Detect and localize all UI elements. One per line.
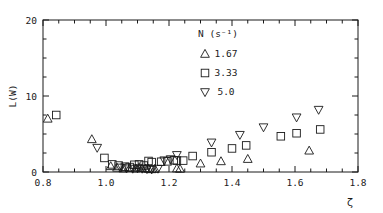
x-tick-label: 0.8: [34, 177, 51, 188]
figure-container: 0.81.01.21.41.61.801020ζL(W)N (s⁻¹)1.673…: [0, 0, 383, 213]
x-tick-label: 1.2: [160, 177, 177, 188]
x-tick-label: 1.0: [97, 177, 114, 188]
legend-label-3.33: 3.33: [215, 67, 238, 78]
x-axis-label: ζ: [347, 196, 354, 209]
data-point-5.0: [207, 139, 216, 147]
scatter-plot: 0.81.01.21.41.61.801020ζL(W)N (s⁻¹)1.673…: [0, 0, 383, 213]
data-point-3.33: [101, 154, 109, 162]
y-tick-label: 10: [26, 91, 38, 102]
data-point-1.67: [305, 146, 314, 154]
x-tick-label: 1.6: [286, 177, 303, 188]
legend-title: N (s⁻¹): [198, 28, 238, 39]
legend-label-1.67: 1.67: [215, 48, 238, 59]
data-point-1.67: [176, 164, 185, 172]
x-tick-label: 1.8: [349, 177, 366, 188]
y-tick-label: 20: [26, 15, 38, 26]
y-axis-label: L(W): [7, 85, 18, 108]
y-tick-label: 0: [31, 167, 37, 178]
data-point-3.33: [293, 129, 301, 137]
data-point-5.0: [236, 131, 245, 139]
legend-label-5.0: 5.0: [217, 86, 234, 97]
data-point-1.67: [87, 135, 96, 143]
data-point-3.33: [228, 145, 236, 153]
data-point-3.33: [52, 111, 60, 119]
data-point-5.0: [292, 114, 301, 122]
legend-marker-5.0: [201, 89, 210, 97]
data-point-1.67: [196, 159, 205, 167]
data-point-1.67: [243, 154, 252, 162]
data-point-5.0: [314, 106, 323, 114]
legend-marker-1.67: [201, 49, 210, 57]
data-point-3.33: [189, 152, 197, 160]
data-point-5.0: [259, 124, 268, 132]
data-point-1.67: [217, 157, 226, 165]
data-point-3.33: [208, 148, 216, 156]
x-tick-label: 1.4: [223, 177, 240, 188]
data-point-3.33: [277, 133, 285, 141]
data-point-3.33: [316, 126, 324, 134]
data-point-3.33: [242, 142, 250, 150]
data-point-5.0: [93, 144, 102, 152]
legend-marker-3.33: [201, 69, 209, 77]
